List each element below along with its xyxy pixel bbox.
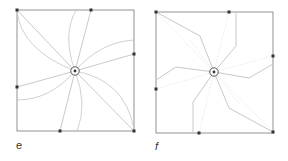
center-dot — [213, 71, 216, 74]
panel-label-f: f — [155, 140, 158, 152]
panel-f-diagram — [0, 0, 288, 161]
